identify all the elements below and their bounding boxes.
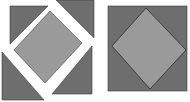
right-panel-assembled (108, 6, 187, 91)
left-panel-exploded (2, 0, 94, 100)
dissection-diagram (0, 0, 190, 102)
